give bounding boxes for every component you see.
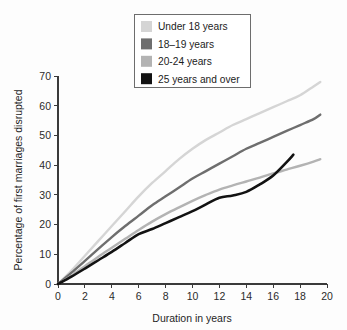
chart-canvas: 010203040506070 02468101214161820 Durati…: [0, 0, 347, 330]
x-tick-label-12: 12: [214, 290, 226, 302]
x-axis-title: Duration in years: [152, 312, 231, 324]
x-tick-label-10: 10: [187, 290, 199, 302]
x-tick-label-2: 2: [82, 290, 88, 302]
y-tick-label-40: 40: [39, 159, 51, 171]
y-tick-label-70: 70: [39, 70, 51, 82]
chart-legend: Under 18 years18–19 years20-24 years25 y…: [135, 15, 251, 88]
legend-label-2: 20-24 years: [158, 56, 212, 67]
x-tick-label-0: 0: [55, 290, 61, 302]
legend-swatch-1: [141, 38, 152, 49]
x-tick-label-6: 6: [136, 290, 142, 302]
y-tick-label-50: 50: [39, 129, 51, 141]
legend-swatch-2: [141, 56, 152, 67]
x-tick-label-4: 4: [109, 290, 115, 302]
y-tick-label-10: 10: [39, 248, 51, 260]
legend-swatch-3: [141, 73, 152, 84]
y-tick-label-0: 0: [45, 278, 51, 290]
x-tick-label-18: 18: [294, 290, 306, 302]
series-line-0: [58, 82, 320, 284]
legend-label-0: Under 18 years: [158, 21, 228, 32]
data-series-group: [58, 82, 320, 284]
line-chart: 010203040506070 02468101214161820 Durati…: [0, 0, 347, 330]
y-axis-title: Percentage of first marriages disrupted: [12, 89, 24, 270]
legend-swatch-0: [141, 21, 152, 32]
series-line-2: [58, 159, 320, 284]
x-tick-label-8: 8: [163, 290, 169, 302]
x-tick-label-14: 14: [240, 290, 252, 302]
y-tick-label-60: 60: [39, 100, 51, 112]
x-tick-label-16: 16: [267, 290, 279, 302]
legend-label-1: 18–19 years: [158, 39, 214, 50]
y-tick-label-30: 30: [39, 189, 51, 201]
legend-label-3: 25 years and over: [158, 74, 240, 85]
y-tick-label-20: 20: [39, 218, 51, 230]
x-tick-label-20: 20: [321, 290, 333, 302]
y-axis-ticks: 010203040506070: [39, 70, 58, 290]
series-line-3: [58, 155, 293, 284]
x-axis-ticks: 02468101214161820: [55, 284, 333, 302]
